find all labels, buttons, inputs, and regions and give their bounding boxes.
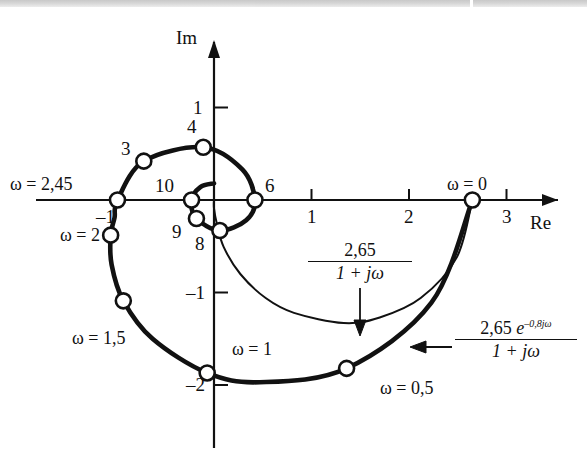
imaginary-axis-arrowhead — [208, 40, 220, 58]
real-axis-label: Re — [530, 213, 551, 232]
formula-undelayed: 2,65 1 + jω — [308, 240, 412, 284]
formula-delayed-numerator: 2,65 e–0,8jω — [455, 318, 577, 339]
frequency-marker-w05 — [339, 361, 354, 376]
marker-label-3: 3 — [121, 139, 131, 158]
arrow-thick-head — [410, 341, 426, 353]
marker-label-4: 4 — [187, 117, 197, 136]
formula-undelayed-denominator: 1 + jω — [308, 261, 412, 284]
marker-label-omega-1-5: ω = 1,5 — [72, 329, 126, 347]
frequency-marker-w15 — [116, 293, 131, 308]
marker-label-9: 9 — [172, 222, 182, 241]
nyquist-plot-figure: Im Re –1 1 2 3 1 –1 –2 ω = 0 ω = 0,5 ω =… — [0, 0, 587, 472]
marker-label-omega-1: ω = 1 — [232, 340, 272, 358]
y-tick-label--1: –1 — [186, 283, 205, 302]
x-tick-label-3: 3 — [502, 207, 512, 226]
x-tick-label-2: 2 — [404, 207, 414, 226]
x-tick-label-1: 1 — [307, 207, 317, 226]
arrow-thin-head — [354, 320, 366, 336]
marker-label-omega-0: ω = 0 — [447, 175, 487, 193]
y-tick-label--2: –2 — [186, 375, 205, 394]
marker-label-omega-2-45: ω = 2,45 — [10, 175, 73, 193]
formula-delayed-exponent: –0,8jω — [524, 318, 551, 329]
real-axis-arrowhead — [542, 194, 558, 206]
imaginary-axis-label: Im — [176, 28, 197, 47]
frequency-marker-w6 — [247, 193, 262, 208]
frequency-marker-w8 — [212, 223, 227, 238]
y-tick-label-1: 1 — [193, 98, 203, 117]
formula-undelayed-numerator: 2,65 — [308, 240, 412, 261]
frequency-marker-w4 — [196, 140, 211, 155]
x-tick-label--1: –1 — [96, 207, 115, 226]
marker-label-10: 10 — [155, 176, 174, 195]
marker-label-8: 8 — [195, 234, 205, 253]
axes-group — [36, 40, 558, 448]
frequency-marker-w3 — [136, 154, 151, 169]
marker-label-6: 6 — [265, 176, 275, 195]
frequency-marker-w2 — [103, 228, 118, 243]
formula-delayed-denominator: 1 + jω — [455, 339, 577, 362]
marker-label-omega-0-5: ω = 0,5 — [380, 379, 434, 397]
frequency-marker-w0 — [465, 193, 480, 208]
formula-delayed: 2,65 e–0,8jω 1 + jω — [455, 318, 577, 362]
frequency-marker-w9 — [189, 211, 204, 226]
marker-label-omega-2: ω = 2 — [60, 226, 100, 244]
formula-delayed-gain: 2,65 — [480, 318, 512, 338]
frequency-marker-w10 — [184, 193, 199, 208]
